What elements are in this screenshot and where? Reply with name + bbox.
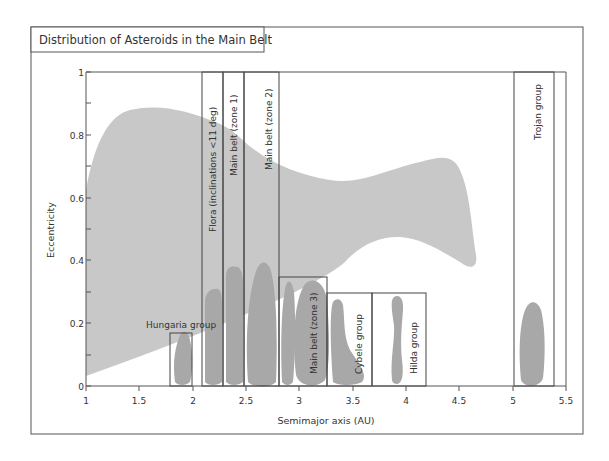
y-tick-label: 0: [78, 382, 84, 392]
x-tick-label: 3.5: [346, 396, 360, 406]
label-zone3: Main belt (zone 3): [309, 292, 319, 374]
x-tick-label: 1.5: [132, 396, 146, 406]
y-tick-label: 0.8: [70, 131, 85, 141]
label-hungaria: Hungaria group: [146, 320, 216, 330]
label-zone1: Main belt (zone 1): [229, 94, 239, 176]
label-hilda: Hilda group: [409, 322, 419, 374]
cluster-zone1: [226, 267, 243, 385]
x-tick-label: 3: [296, 396, 302, 406]
label-cybele: Cybele group: [354, 314, 364, 374]
x-tick-label: 1: [83, 396, 89, 406]
x-axis-title: Semimajor axis (AU): [277, 415, 374, 426]
y-axis-title: Eccentricity: [45, 202, 56, 258]
x-tick-label: 2.5: [239, 396, 253, 406]
label-trojan: Trojan group: [533, 84, 543, 141]
y-tick-label: 0.2: [70, 319, 84, 329]
y-tick-label: 1: [78, 68, 84, 78]
cluster-flora: [205, 289, 222, 385]
asteroid-distribution-chart: Distribution of Asteroids in the Main Be…: [0, 0, 609, 461]
label-zone2: Main belt (zone 2): [264, 88, 274, 170]
x-tick-label: 5.5: [559, 396, 573, 406]
x-tick-label: 4: [403, 396, 409, 406]
y-tick-label: 0.4: [70, 256, 85, 266]
x-tick-label: 4.5: [452, 396, 466, 406]
x-tick-label: 2: [190, 396, 196, 406]
x-tick-label: 5: [510, 396, 516, 406]
label-flora: Flora (inclinations <11 deg): [208, 107, 218, 232]
chart-title: Distribution of Asteroids in the Main Be…: [39, 33, 273, 47]
y-tick-label: 0.6: [70, 194, 85, 204]
